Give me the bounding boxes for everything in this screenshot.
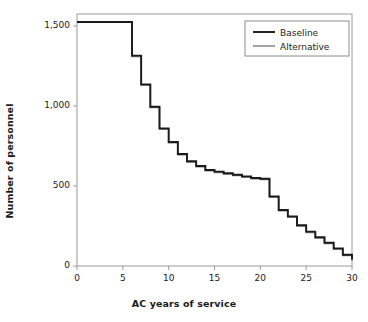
chart-legend: BaselineAlternative	[245, 21, 349, 56]
legend-label-baseline: Baseline	[280, 28, 319, 38]
legend-label-alternative: Alternative	[280, 42, 330, 52]
chart-plot-area: BaselineAlternative	[0, 0, 368, 322]
chart-figure: Number of personnel AC years of service …	[0, 0, 368, 322]
